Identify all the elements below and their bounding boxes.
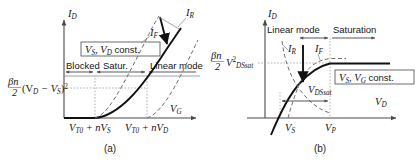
svg-text:V2DSsat: V2DSsat xyxy=(226,56,254,71)
x-tick-label-b-2: VP xyxy=(325,122,336,135)
region-label-saturation-b: Saturation xyxy=(333,24,376,35)
condition-box-a: VS, VD const. xyxy=(81,42,160,57)
y-tick-label-b: βn 2 V2DSsat xyxy=(210,50,254,72)
label-ir-b: IR xyxy=(283,43,297,56)
x-axis-label-b: VD xyxy=(375,96,387,109)
label-if-b: IF xyxy=(314,43,324,60)
y-tick-label-a: βn 2 (VD − VS)2 xyxy=(7,76,68,98)
condition-box-b: VS, VG const. xyxy=(335,70,414,85)
x-tick-label-a-1: VT0 + nVS xyxy=(69,122,111,135)
region-label-saturation-a: Satur. xyxy=(103,60,128,71)
svg-text:IF: IF xyxy=(149,27,159,40)
svg-text:βn: βn xyxy=(210,50,221,61)
x-axis-label-a: VG xyxy=(170,103,182,116)
panel-caption-a: (a) xyxy=(104,143,116,154)
x-tick-label-a-2: VT0 + nVD xyxy=(125,122,169,135)
svg-text:IR: IR xyxy=(185,7,195,20)
region-label-blocked-a: Blocked xyxy=(66,60,100,71)
span-label-vdssat-b: VDSsat xyxy=(308,84,333,97)
svg-text:βn: βn xyxy=(7,76,18,87)
panel-b: ID VD Linear mode Saturation IR IF xyxy=(210,8,414,154)
y-axis-label-a: ID xyxy=(67,8,78,21)
svg-text:2: 2 xyxy=(12,87,18,98)
y-axis-label-b: ID xyxy=(267,8,278,21)
svg-text:IR: IR xyxy=(287,43,297,56)
x-tick-label-b-1: VS xyxy=(285,122,295,135)
svg-text:(VD − VS)2: (VD − VS)2 xyxy=(22,83,68,97)
region-label-linear-b: Linear mode xyxy=(267,24,320,35)
label-if-a: IF xyxy=(141,27,159,43)
panel-caption-b: (b) xyxy=(314,143,326,154)
label-ir-a: IR xyxy=(178,7,195,27)
svg-text:IF: IF xyxy=(314,43,324,56)
svg-text:2: 2 xyxy=(215,61,221,72)
figure-container: ID VG Blocked Satur. Linear mode VS, VD … xyxy=(0,0,416,164)
panel-a: ID VG Blocked Satur. Linear mode VS, VD … xyxy=(7,7,203,154)
